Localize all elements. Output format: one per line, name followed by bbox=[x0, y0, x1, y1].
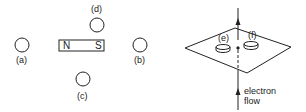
compass-d-label: (d) bbox=[91, 4, 102, 14]
south-pole-label: S bbox=[95, 40, 102, 51]
compass-e-label: (e) bbox=[218, 33, 229, 43]
compass-b bbox=[133, 38, 147, 52]
electron-flow-label-line2: flow bbox=[244, 96, 261, 106]
arrow-up-lower-icon bbox=[236, 88, 241, 95]
compass-c-label: (c) bbox=[77, 91, 88, 101]
compass-a bbox=[15, 38, 29, 52]
compass-f-label: (f) bbox=[248, 30, 257, 40]
compass-c bbox=[76, 72, 90, 86]
wire-intersection-point bbox=[237, 47, 239, 49]
magnet-figure bbox=[15, 18, 147, 86]
magnet-labels: N S (a) (b) (c) (d) bbox=[16, 4, 145, 101]
electron-flow-label-line1: electron bbox=[244, 86, 276, 96]
north-pole-label: N bbox=[63, 40, 70, 51]
compass-a-label: (a) bbox=[16, 55, 27, 65]
diagram-canvas: N S (a) (b) (c) (d) (e) (f) electron bbox=[0, 0, 306, 112]
compass-b-label: (b) bbox=[134, 55, 145, 65]
compass-d bbox=[90, 18, 104, 32]
arrow-up-icon bbox=[236, 18, 241, 25]
